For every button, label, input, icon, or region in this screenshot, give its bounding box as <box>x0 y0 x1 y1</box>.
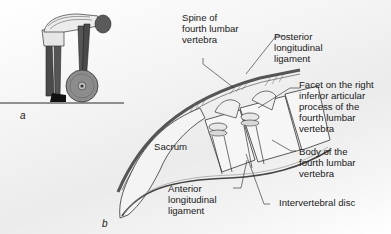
figure: a b Spine of fourth lumbar vertebra Post… <box>0 0 391 234</box>
panel-letter-b: b <box>102 218 108 229</box>
label-body-of-l4: Body of the fourth lumbar vertebra <box>299 146 356 179</box>
panel-letter-a: a <box>20 110 26 121</box>
label-anterior-longitudinal-ligament: Anterior longitudinal ligament <box>168 183 217 216</box>
label-facet: Facet on the right inferior articular pr… <box>299 79 374 134</box>
label-posterior-longitudinal-ligament: Posterior longitudinal ligament <box>274 31 323 64</box>
label-sacrum: Sacrum <box>154 141 187 152</box>
label-spine-of-l4: Spine of fourth lumbar vertebra <box>182 12 239 45</box>
facet-l5 <box>215 100 240 118</box>
label-intervertebral-disc: Intervertebral disc <box>279 197 355 208</box>
